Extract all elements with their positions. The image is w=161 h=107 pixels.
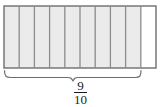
fraction-bar-diagram: [0, 0, 161, 107]
unshaded-region: [141, 6, 156, 68]
fraction-bar-figure: 9 10: [0, 0, 161, 107]
brace-under-shaded: [5, 71, 142, 82]
shaded-region: [4, 6, 141, 68]
